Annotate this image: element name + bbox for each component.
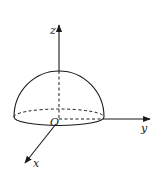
y-axis-label: y	[140, 122, 148, 135]
origin-label: O	[50, 116, 59, 129]
z-axis-label: z	[49, 24, 56, 37]
x-axis-label: x	[33, 157, 40, 170]
x-axis	[25, 124, 56, 163]
hemisphere-diagram: z y x O	[0, 0, 161, 182]
